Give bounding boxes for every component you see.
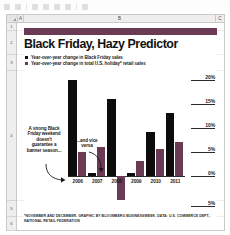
accent-bar (24, 28, 217, 35)
y-tick-line (191, 80, 215, 81)
annotation-arrow-left-icon (44, 162, 70, 184)
y-tick-line (191, 176, 215, 177)
sheet-grid[interactable]: Black Friday, Hazy Predictor Year-over-y… (17, 23, 224, 230)
bar-black-friday-2008[interactable] (107, 99, 115, 176)
bar-holiday-2006[interactable] (78, 152, 86, 176)
annotation-middle: ...and vice versa (72, 138, 102, 149)
bar-holiday-2007[interactable] (97, 147, 105, 176)
legend-label: Year-over-year change in Black Friday sa… (31, 55, 123, 60)
bar-group-2011: 2011 (166, 70, 186, 210)
column-header-c[interactable]: C (216, 15, 224, 22)
x-tick-label-2009: 2009 (127, 179, 147, 184)
row-header-3[interactable]: 3 (7, 55, 16, 71)
chart-legend: Year-over-year change in Black Friday sa… (25, 55, 217, 67)
gear-icon[interactable] (82, 4, 88, 10)
bar-group-2010: 2010 (146, 70, 166, 210)
shape-icon[interactable] (65, 4, 71, 10)
legend-item-holiday: Year-over-year change in total U.S. holi… (25, 61, 217, 66)
x-tick-label-2010: 2010 (146, 179, 166, 184)
bar-holiday-2011[interactable] (175, 142, 183, 176)
cursor-icon[interactable] (4, 4, 10, 10)
y-tick-line (191, 152, 215, 153)
y-tick-line (191, 206, 215, 207)
bar-chart: 20% 15% 10% 5% (24, 70, 217, 210)
screenshot-root: A B C 1 2 3 4 5 6 Black Friday, Hazy Pre… (0, 0, 230, 235)
toolbar-divider (26, 3, 27, 10)
y-tick-line (191, 104, 215, 105)
row-header-5[interactable]: 5 (7, 201, 16, 217)
x-tick-label-2008: 2008 (107, 179, 127, 184)
x-tick-label-2011: 2011 (166, 179, 186, 184)
row-header-4[interactable]: 4 (7, 71, 16, 201)
bar-black-friday-2011[interactable] (166, 113, 174, 176)
bar-holiday-2010[interactable] (156, 149, 164, 176)
bar-holiday-2009[interactable] (136, 161, 144, 176)
y-axis: 20% 15% 10% 5% (187, 70, 217, 210)
legend-label: Year-over-year change in total U.S. holi… (31, 61, 146, 66)
row-header-column: 1 2 3 4 5 6 (7, 23, 17, 230)
legend-swatch-icon (25, 56, 28, 59)
hand-icon[interactable] (15, 4, 21, 10)
spreadsheet: A B C 1 2 3 4 5 6 Black Friday, Hazy Pre… (6, 14, 225, 231)
zoom-icon[interactable] (32, 4, 38, 10)
x-tick-label-2006: 2006 (68, 179, 88, 184)
chart-footnote: *NOVEMBER AND DECEMBER. GRAPHIC BY BLOOM… (24, 214, 217, 223)
toolbar-divider (76, 3, 77, 10)
row-header-1[interactable]: 1 (7, 23, 16, 31)
column-header-row: A B C (7, 15, 224, 23)
bar-group-2008: 2008 (107, 70, 127, 210)
crop-icon[interactable] (43, 4, 49, 10)
page-title: Black Friday, Hazy Predictor (24, 38, 217, 50)
row-header-6[interactable]: 6 (7, 217, 16, 231)
column-header-b[interactable]: B (24, 15, 216, 22)
app-toolbar (0, 0, 230, 13)
x-tick-label-2007: 2007 (88, 179, 108, 184)
annotation-left: A strong Black Friday weekend doesn't gu… (26, 126, 62, 153)
row-header-2[interactable]: 2 (7, 31, 16, 55)
legend-swatch-icon (25, 62, 28, 65)
bar-black-friday-2009[interactable] (127, 173, 135, 176)
select-all-corner[interactable] (7, 15, 18, 22)
bar-black-friday-2010[interactable] (146, 132, 154, 176)
bar-group-2009: 2009 (127, 70, 147, 210)
infographic: Black Friday, Hazy Predictor Year-over-y… (24, 28, 217, 224)
legend-item-black-friday: Year-over-year change in Black Friday sa… (25, 55, 217, 60)
bar-black-friday-2007[interactable] (88, 173, 96, 176)
bar-black-friday-2006[interactable] (68, 80, 76, 176)
y-tick-line (191, 128, 215, 129)
text-icon[interactable] (54, 4, 60, 10)
